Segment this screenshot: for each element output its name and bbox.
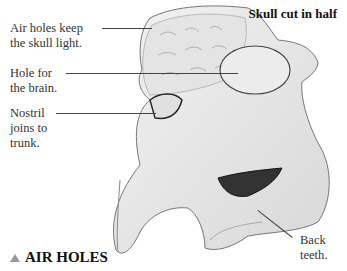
figure-title: Skull cut in half xyxy=(248,6,337,22)
label-line: teeth. xyxy=(300,248,327,263)
label-line: trunk. xyxy=(10,136,47,151)
label-line: Back xyxy=(300,233,327,248)
label-nostril: Nostril joins to trunk. xyxy=(10,106,47,151)
leader-line-air-holes xyxy=(102,28,152,29)
label-line: Hole for xyxy=(10,66,57,81)
label-line: Air holes keep xyxy=(10,21,83,36)
label-air-holes: Air holes keep the skull light. xyxy=(10,21,83,51)
label-brain-hole: Hole for the brain. xyxy=(10,66,57,96)
leader-line-brain-hole xyxy=(66,73,238,74)
label-line: the brain. xyxy=(10,81,57,96)
label-line: the skull light. xyxy=(10,36,83,51)
heading-text: AIR HOLES xyxy=(25,249,108,266)
label-line: Nostril xyxy=(10,106,47,121)
section-heading: AIR HOLES xyxy=(10,249,108,266)
leader-line-nostril xyxy=(56,113,156,114)
label-back-teeth: Back teeth. xyxy=(300,233,327,263)
triangle-up-icon xyxy=(10,254,20,262)
label-line: joins to xyxy=(10,121,47,136)
